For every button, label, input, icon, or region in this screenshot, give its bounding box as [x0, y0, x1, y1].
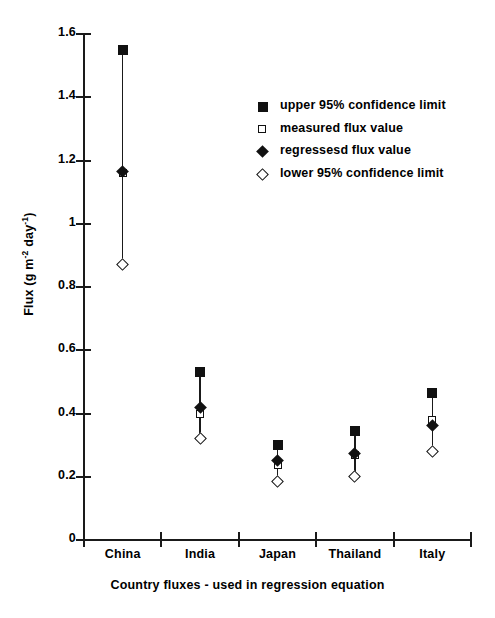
y-axis-tick-label: 0.4 [30, 405, 76, 419]
y-axis-tick [76, 160, 91, 162]
data-point-filled-square [195, 367, 205, 377]
y-axis-tick-label: 1 [30, 215, 76, 229]
y-axis-title-sup-2: -1 [20, 217, 30, 225]
x-axis-tick [83, 532, 85, 547]
y-axis-tick [76, 96, 91, 98]
legend-marker-open-square-icon [258, 125, 266, 133]
y-axis-title-sup-1: -2 [20, 251, 30, 259]
data-point-filled-square [350, 426, 360, 436]
data-point-open-diamond [194, 432, 207, 445]
legend-marker-open-diamond-icon [256, 168, 269, 181]
x-axis-tick [315, 532, 317, 547]
y-axis-title: Flux (g m-2 day-1) [20, 164, 36, 364]
legend-item-label: lower 95% confidence limit [280, 166, 444, 180]
data-point-filled-square [427, 388, 437, 398]
data-point-open-diamond [116, 258, 129, 271]
legend-marker-filled-square-icon [258, 102, 268, 112]
x-axis-title: Country fluxes - used in regression equa… [0, 578, 495, 592]
y-axis-tick [76, 349, 91, 351]
x-axis-tick [470, 532, 472, 547]
x-axis-line [83, 539, 471, 541]
y-axis-tick-label: 0 [30, 531, 76, 545]
y-axis-tick-label: 0.6 [30, 341, 76, 355]
x-axis-tick [238, 532, 240, 547]
confidence-interval-line [122, 50, 124, 265]
y-axis-tick [76, 413, 91, 415]
y-axis-tick [76, 33, 91, 35]
y-axis-tick-label: 1.2 [30, 152, 76, 166]
y-axis-tick-label: 0.8 [30, 278, 76, 292]
y-axis-tick-label: 0.2 [30, 468, 76, 482]
data-point-filled-square [118, 45, 128, 55]
x-axis-category-label: Italy [382, 547, 482, 561]
x-axis-tick [393, 532, 395, 547]
data-point-filled-square [273, 440, 283, 450]
data-point-open-diamond [271, 475, 284, 488]
y-axis-tick-label: 1.4 [30, 88, 76, 102]
legend-item-label: measured flux value [280, 121, 403, 135]
y-axis-tick [76, 223, 91, 225]
x-axis-tick [160, 532, 162, 547]
y-axis-tick-label: 1.6 [30, 25, 76, 39]
flux-scatter-chart: Flux (g m-2 day-1) 00.20.40.60.811.21.41… [0, 0, 495, 618]
y-axis-tick [76, 286, 91, 288]
legend-item-label: upper 95% confidence limit [280, 98, 446, 112]
y-axis-tick [76, 476, 91, 478]
legend-marker-filled-diamond-icon [256, 145, 269, 158]
data-point-open-diamond [426, 445, 439, 458]
data-point-open-diamond [349, 470, 362, 483]
legend-item-label: regressesd flux value [280, 143, 411, 157]
